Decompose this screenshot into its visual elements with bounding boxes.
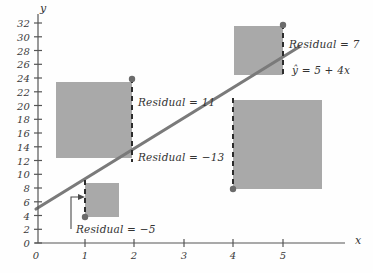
data-point-x1 [82, 214, 88, 220]
residual-squares-chart: 0 2 4 6 8 10 12 14 16 18 20 22 24 26 28 … [0, 0, 373, 273]
y-tick-label-18: 18 [6, 114, 30, 125]
data-point-x2 [129, 76, 135, 82]
y-tick-label-16: 16 [6, 128, 30, 139]
y-axis-label: y [40, 2, 46, 15]
x-tick-label-4: 4 [230, 250, 237, 261]
residual-square-x2 [56, 82, 132, 158]
residual-label-7: Residual = 7 [289, 38, 360, 50]
data-point-x5 [280, 22, 286, 28]
residual-square-x1 [85, 183, 119, 217]
y-tick-label-32: 32 [6, 18, 30, 29]
y-tick-label-10: 10 [6, 169, 30, 180]
y-tick-label-2: 2 [6, 224, 30, 235]
residual-callout-arrowhead [78, 194, 85, 200]
residual-label-neg13: Residual = −13 [138, 151, 224, 163]
x-tick-label-3: 3 [181, 250, 188, 261]
y-tick-label-22: 22 [6, 87, 30, 98]
y-tick-label-20: 20 [6, 101, 30, 112]
y-tick-label-28: 28 [6, 46, 30, 57]
residual-square-x5 [234, 26, 283, 75]
y-tick-label-0: 0 [6, 238, 30, 249]
y-tick-label-6: 6 [6, 197, 30, 208]
x-tick-label-5: 5 [280, 250, 287, 261]
y-tick-label-30: 30 [6, 32, 30, 43]
data-point-x4 [230, 186, 236, 192]
y-tick-label-8: 8 [6, 183, 30, 194]
regression-equation: ŷ = 5 + 4x [292, 64, 350, 76]
residual-square-x4 [233, 100, 322, 189]
residual-label-11: Residual = 11 [138, 96, 215, 108]
x-tick-label-0: 0 [33, 250, 40, 261]
y-tick-label-14: 14 [6, 142, 30, 153]
x-tick-label-1: 1 [82, 250, 89, 261]
y-tick-label-26: 26 [6, 59, 30, 70]
residual-label-neg5: Residual = −5 [76, 223, 156, 235]
y-tick-label-4: 4 [6, 211, 30, 222]
y-tick-label-12: 12 [6, 156, 30, 167]
x-axis-label: x [355, 234, 361, 247]
x-tick-label-2: 2 [131, 250, 138, 261]
y-tick-label-24: 24 [6, 73, 30, 84]
